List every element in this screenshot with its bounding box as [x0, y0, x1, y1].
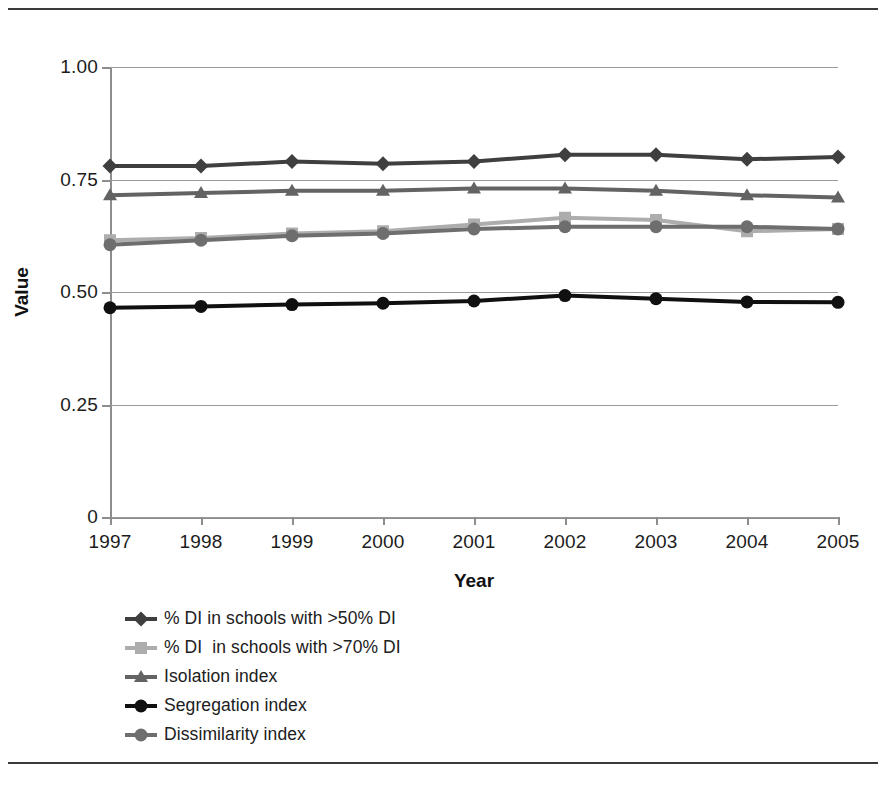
y-tick: [102, 517, 110, 519]
x-tick-label: 2003: [634, 531, 677, 553]
y-tick: [102, 67, 110, 69]
legend-swatch: [118, 638, 164, 658]
y-tick: [102, 405, 110, 407]
data-point-circle: [741, 295, 754, 308]
x-tick: [474, 517, 476, 525]
x-tick: [838, 517, 840, 525]
data-point-circle: [650, 220, 663, 233]
data-point-circle: [377, 297, 390, 310]
legend-item[interactable]: Dissimilarity index: [118, 720, 638, 749]
x-tick: [656, 517, 658, 525]
data-point-diamond: [558, 147, 573, 162]
x-tick-label: 2000: [361, 531, 404, 553]
y-tick: [102, 180, 110, 182]
legend-label: Isolation index: [164, 666, 277, 687]
legend-swatch: [118, 609, 164, 629]
legend-item[interactable]: % DI in schools with >50% DI: [118, 604, 638, 633]
y-tick-label: 0.50: [60, 281, 98, 303]
data-point-diamond: [740, 152, 755, 167]
data-point-diamond: [134, 611, 149, 626]
data-point-diamond: [103, 159, 118, 174]
x-tick: [565, 517, 567, 525]
data-point-circle: [559, 220, 572, 233]
legend-item[interactable]: Segregation index: [118, 691, 638, 720]
legend-item[interactable]: Isolation index: [118, 662, 638, 691]
data-point-circle: [104, 238, 117, 251]
data-point-circle: [135, 699, 148, 712]
x-tick-label: 1998: [179, 531, 222, 553]
page-rule-top: [8, 8, 878, 10]
data-point-circle: [286, 229, 299, 242]
series-3: [104, 289, 845, 314]
y-axis-title: Value: [11, 267, 33, 317]
x-tick-label: 1997: [88, 531, 131, 553]
legend-swatch: [118, 667, 164, 687]
data-point-diamond: [194, 159, 209, 174]
figure: Value 00.250.500.751.00 1997199819992000…: [0, 14, 886, 756]
x-tick-label: 1999: [270, 531, 313, 553]
legend-marker-circle-icon: [124, 696, 158, 716]
legend-marker-diamond-icon: [124, 609, 158, 629]
x-tick-label: 2001: [452, 531, 495, 553]
data-point-circle: [377, 227, 390, 240]
data-point-circle: [468, 295, 481, 308]
series-2: [103, 182, 845, 203]
page-rule-bottom: [8, 762, 878, 764]
chart-legend: % DI in schools with >50% DI% DI in scho…: [118, 604, 638, 749]
x-tick: [383, 517, 385, 525]
legend-swatch: [118, 696, 164, 716]
x-tick: [747, 517, 749, 525]
legend-label: Segregation index: [164, 695, 307, 716]
legend-marker-circle-icon: [124, 725, 158, 745]
x-tick: [110, 517, 112, 525]
data-point-circle: [135, 728, 148, 741]
y-tick-label: 0: [87, 506, 98, 528]
legend-marker-triangle-icon: [124, 667, 158, 687]
legend-label: Dissimilarity index: [164, 724, 306, 745]
data-point-diamond: [831, 150, 846, 165]
legend-swatch: [118, 725, 164, 745]
y-tick-label: 1.00: [60, 56, 98, 78]
x-tick-label: 2004: [725, 531, 768, 553]
legend-label: % DI in schools with >50% DI: [164, 608, 396, 629]
data-point-diamond: [285, 154, 300, 169]
data-series-layer: [110, 67, 838, 517]
data-point-circle: [286, 298, 299, 311]
legend-item[interactable]: % DI in schools with >70% DI: [118, 633, 638, 662]
y-tick: [102, 292, 110, 294]
plot-wrapper: Value 00.250.500.751.00 1997199819992000…: [0, 14, 886, 554]
data-point-square: [135, 642, 147, 654]
legend-label: % DI in schools with >70% DI: [164, 637, 401, 658]
x-tick-label: 2002: [543, 531, 586, 553]
data-point-diamond: [376, 156, 391, 171]
data-point-circle: [468, 223, 481, 236]
data-point-circle: [195, 300, 208, 313]
plot-area: 00.250.500.751.00 1997199819992000200120…: [110, 67, 838, 517]
data-point-diamond: [467, 154, 482, 169]
data-point-circle: [195, 234, 208, 247]
x-axis-title: Year: [110, 570, 838, 592]
data-point-circle: [650, 292, 663, 305]
y-tick-label: 0.75: [60, 169, 98, 191]
x-tick-label: 2005: [816, 531, 859, 553]
series-0: [103, 147, 846, 173]
y-tick-label: 0.25: [60, 394, 98, 416]
data-point-circle: [832, 223, 845, 236]
data-point-circle: [559, 289, 572, 302]
legend-marker-square-icon: [124, 638, 158, 658]
data-point-circle: [104, 301, 117, 314]
x-tick: [292, 517, 294, 525]
data-point-diamond: [649, 147, 664, 162]
x-tick: [201, 517, 203, 525]
data-point-circle: [832, 296, 845, 309]
data-point-circle: [741, 220, 754, 233]
